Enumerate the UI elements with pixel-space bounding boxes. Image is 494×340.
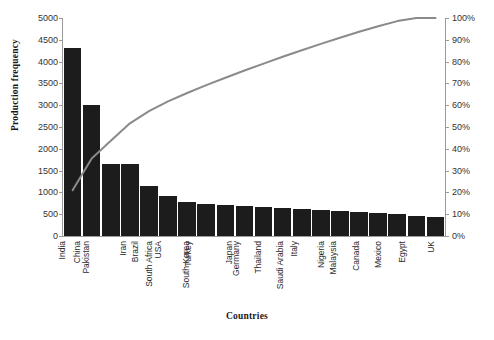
y-tick-mark <box>59 236 62 237</box>
y-tick-mark <box>59 18 62 19</box>
x-tick-label: Brazil <box>131 241 140 262</box>
x-tick-label: Nigeria <box>317 241 326 268</box>
y2-tick-label: 60% <box>452 100 470 110</box>
y2-tick-mark <box>446 171 449 172</box>
y2-tick-label: 70% <box>452 78 470 88</box>
y-tick-label: 3000 <box>38 100 58 110</box>
x-tick-label: Saudi Arabia <box>276 241 285 289</box>
plot-area <box>63 18 445 236</box>
y-tick-label: 5000 <box>38 13 58 23</box>
x-tick-label: Mexico <box>374 241 383 268</box>
y2-tick-label: 100% <box>452 13 475 23</box>
y-tick-label: 2500 <box>38 122 58 132</box>
x-tick-label: USA <box>154 241 163 258</box>
y2-tick-mark <box>446 18 449 19</box>
y2-tick-mark <box>446 105 449 106</box>
y2-tick-mark <box>446 62 449 63</box>
x-tick-label: Thailand <box>254 241 263 274</box>
x-tick-label: South Korea <box>182 241 191 288</box>
y2-axis-tick-labels: 0%10%20%30%40%50%60%70%80%90%100% <box>452 0 494 340</box>
y2-tick-label: 30% <box>452 166 470 176</box>
x-tick-label: Egypt <box>398 241 407 263</box>
y-tick-mark <box>59 62 62 63</box>
y-tick-mark <box>59 40 62 41</box>
y-tick-label: 3500 <box>38 78 58 88</box>
y-tick-mark <box>59 214 62 215</box>
y-tick-mark <box>59 171 62 172</box>
x-tick-label: Pakistan <box>82 241 91 274</box>
x-tick-label: India <box>58 241 67 259</box>
y2-tick-mark <box>446 192 449 193</box>
y-tick-label: 500 <box>43 209 58 219</box>
cumulative-polyline <box>73 18 436 190</box>
y2-tick-label: 90% <box>452 35 470 45</box>
y2-tick-mark <box>446 149 449 150</box>
y-tick-label: 0 <box>53 231 58 241</box>
y-tick-label: 4000 <box>38 57 58 67</box>
y2-tick-mark <box>446 83 449 84</box>
x-tick-label: Italy <box>290 241 299 257</box>
x-tick-label: UK <box>427 241 436 253</box>
y-tick-mark <box>59 105 62 106</box>
y-tick-label: 1000 <box>38 187 58 197</box>
y-tick-mark <box>59 127 62 128</box>
y2-tick-label: 10% <box>452 209 470 219</box>
x-tick-label: Malaysia <box>329 241 338 275</box>
y-tick-label: 2000 <box>38 144 58 154</box>
cumulative-line <box>63 18 445 236</box>
y2-tick-label: 50% <box>452 122 470 132</box>
y-tick-mark <box>59 149 62 150</box>
y-tick-label: 4500 <box>38 35 58 45</box>
x-axis-category-labels: IndiaChinaPakistanIranBrazilUSASouth Afr… <box>63 239 445 309</box>
y2-tick-mark <box>446 127 449 128</box>
y-tick-label: 1500 <box>38 166 58 176</box>
y2-tick-label: 20% <box>452 187 470 197</box>
y-tick-mark <box>59 192 62 193</box>
x-tick-label: Canada <box>352 241 361 271</box>
x-tick-label: Iran <box>119 241 128 256</box>
y2-tick-label: 40% <box>452 144 470 154</box>
bottom-axis-line <box>62 236 446 237</box>
y-axis-tick-labels: 0500100015002000250030003500400045005000 <box>0 0 58 340</box>
pareto-chart: Production frequency 0500100015002000250… <box>0 0 494 340</box>
x-tick-label: South Africa <box>145 241 154 287</box>
y-tick-mark <box>59 83 62 84</box>
y2-tick-mark <box>446 40 449 41</box>
y2-tick-label: 0% <box>452 231 465 241</box>
y2-tick-mark <box>446 214 449 215</box>
x-tick-label: Germany <box>232 241 241 276</box>
y2-tick-mark <box>446 236 449 237</box>
x-axis-title: Countries <box>0 311 494 321</box>
y2-tick-label: 80% <box>452 57 470 67</box>
